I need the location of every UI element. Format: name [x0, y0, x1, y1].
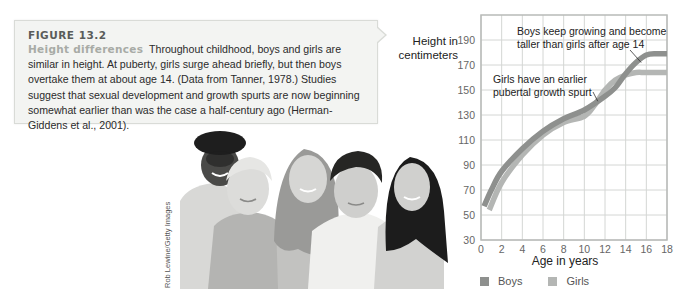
legend-label-girls: Girls [566, 275, 589, 287]
legend-item-girls: Girls [548, 275, 589, 287]
caption-title: Height differences [28, 43, 143, 55]
figure-caption-box: FIGURE 13.2 Height differences Throughou… [14, 20, 378, 124]
y-tick-label: 30 [463, 234, 475, 246]
x-axis-label: Age in years [460, 254, 670, 268]
legend-swatch-girls [548, 277, 557, 286]
legend-swatch-boys [480, 277, 489, 286]
height-chart: Height in centimeters 024681012141618305… [380, 0, 692, 299]
annotation-girls: Girls have an earlierpubertal growth spu… [493, 73, 592, 98]
legend-item-boys: Boys [480, 275, 522, 287]
photo-credit: Rob Lewine/Getty Images [163, 202, 172, 288]
y-tick-label: 70 [463, 184, 475, 196]
y-tick-label: 130 [457, 109, 475, 121]
legend: Boys Girls [480, 275, 615, 287]
y-tick-label: 90 [463, 159, 475, 171]
y-tick-label: 150 [457, 84, 475, 96]
caption-text: Height differences Throughout childhood,… [28, 42, 367, 133]
y-tick-label: 170 [457, 59, 475, 71]
annotation-boys: Boys keep growing and becometaller than … [517, 25, 667, 50]
y-tick-label: 50 [463, 209, 475, 221]
figure-label: FIGURE 13.2 [28, 29, 367, 41]
y-tick-label: 110 [458, 134, 475, 146]
caption-body: Throughout childhood, boys and girls are… [28, 43, 360, 131]
y-tick-label: 190 [457, 34, 475, 46]
legend-label-boys: Boys [498, 275, 522, 287]
